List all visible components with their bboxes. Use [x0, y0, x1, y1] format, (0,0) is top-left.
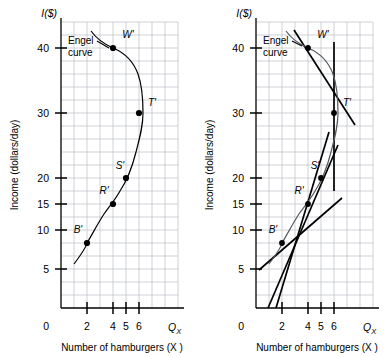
y-tick-label-30: 30: [232, 107, 244, 119]
y-axis-title: Income (dollars/day): [9, 120, 20, 211]
right-panel-svg: 40 30 20 15 10 5 0 2 4 5 6 I($) QX Incom…: [195, 0, 391, 357]
left-panel-svg: 40 30 20 15 10 5 0 2 4 5 6 I($) QX Incom…: [0, 0, 196, 357]
point-R-prime: [110, 201, 116, 207]
point-R-prime: [305, 201, 311, 207]
point-label-R-prime: R': [294, 185, 304, 196]
engel-curve-annotation-line1: Engel: [263, 35, 289, 46]
point-T-prime: [331, 110, 337, 116]
x-tick-label-4: 4: [110, 320, 116, 332]
point-T-prime: [136, 110, 142, 116]
y-tick-label-40: 40: [232, 42, 244, 54]
y-tick-label-5: 5: [43, 263, 49, 275]
x-tick-label-5: 5: [123, 320, 129, 332]
panel-right-engel-curve-with-tangents: 40 30 20 15 10 5 0 2 4 5 6 I($) QX Incom…: [195, 0, 391, 357]
y-tick-label-40: 40: [37, 42, 49, 54]
x-tick-label-5: 5: [318, 320, 324, 332]
x-tick-label-4: 4: [305, 320, 311, 332]
y-tick-label-20: 20: [232, 172, 244, 184]
x-axis-title: Number of hamburgers (X ): [61, 342, 183, 353]
y-tick-label-20: 20: [37, 172, 49, 184]
point-label-S-prime: S': [311, 160, 321, 171]
y-tick-label-10: 10: [37, 224, 49, 236]
x-axis-symbol-sub: X: [370, 327, 377, 336]
engel-curve-figure: 40 30 20 15 10 5 0 2 4 5 6 I($) QX Incom…: [0, 0, 391, 357]
point-S-prime: [123, 175, 129, 181]
point-W-prime: [305, 45, 311, 51]
point-W-prime: [110, 45, 116, 51]
x-axis-symbol-main: Q: [168, 321, 176, 333]
x-tick-label-2: 2: [279, 320, 285, 332]
point-label-T-prime: T': [343, 97, 352, 108]
y-tick-label-15: 15: [232, 198, 244, 210]
engel-curve-path: [74, 31, 143, 264]
x-tick-label-6: 6: [331, 320, 337, 332]
y-axis-symbol: I($): [41, 7, 57, 19]
tangent-lines: [259, 30, 355, 308]
point-label-T-prime: T': [148, 97, 157, 108]
point-label-S-prime: S': [116, 160, 126, 171]
x-axis-symbol: QX: [168, 321, 182, 336]
y-axis-symbol: I($): [236, 7, 252, 19]
svg-text:QX: QX: [168, 321, 182, 336]
svg-text:QX: QX: [363, 321, 377, 336]
y-axis-title: Income (dollars/day): [204, 120, 215, 211]
y-tick-label-0: 0: [43, 320, 49, 332]
x-axis-symbol-sub: X: [175, 327, 182, 336]
point-S-prime: [318, 175, 324, 181]
y-tick-label-15: 15: [37, 198, 49, 210]
y-tick-label-10: 10: [232, 224, 244, 236]
y-tick-label-5: 5: [238, 263, 244, 275]
tangent-line-at-S-prime: [268, 145, 338, 308]
x-axis-symbol: QX: [363, 321, 377, 336]
point-label-W-prime: W': [317, 29, 329, 40]
point-B-prime: [84, 240, 90, 246]
point-B-prime: [279, 240, 285, 246]
point-label-R-prime: R': [99, 185, 109, 196]
point-label-B-prime: B': [269, 224, 279, 235]
x-axis-symbol-main: Q: [363, 321, 371, 333]
tangent-line-at-W-prime: [294, 30, 355, 125]
engel-curve-path: [269, 31, 338, 264]
engel-curve-annotation-line1: Engel: [68, 35, 94, 46]
x-tick-label-6: 6: [136, 320, 142, 332]
engel-curve-annotation-line2: curve: [68, 47, 93, 58]
point-label-W-prime: W': [122, 29, 134, 40]
y-tick-label-0: 0: [238, 320, 244, 332]
engel-curve-annotation-line2: curve: [263, 47, 288, 58]
x-tick-label-2: 2: [84, 320, 90, 332]
point-label-B-prime: B': [74, 224, 84, 235]
y-tick-label-30: 30: [37, 107, 49, 119]
panel-left-engel-curve: 40 30 20 15 10 5 0 2 4 5 6 I($) QX Incom…: [0, 0, 196, 357]
x-axis-title: Number of hamburgers (X ): [256, 342, 378, 353]
